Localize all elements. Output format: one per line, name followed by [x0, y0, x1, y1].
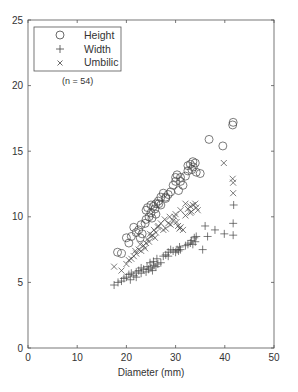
data-point — [220, 230, 228, 238]
y-tick-label: 15 — [12, 146, 24, 157]
x-tick-label: 10 — [72, 352, 84, 363]
data-point — [142, 206, 150, 214]
legend-label: Width — [84, 43, 111, 55]
x-axis-label: Diameter (mm) — [118, 367, 185, 378]
data-point — [181, 172, 189, 180]
data-point — [175, 187, 183, 195]
data-point — [130, 223, 138, 231]
data-point — [122, 234, 130, 242]
series-width — [110, 201, 238, 289]
scatter-chart: 01020304050 0510152025 Diameter (mm) Hei… — [0, 0, 298, 392]
data-point — [230, 201, 238, 209]
x-tick-label: 30 — [170, 352, 182, 363]
data-point — [229, 219, 237, 227]
x-tick-label: 20 — [121, 352, 133, 363]
data-point — [204, 232, 212, 240]
y-tick-label: 10 — [12, 211, 24, 222]
legend-label: Umbilic — [84, 56, 118, 68]
legend: Height Width Umbilic — [34, 27, 121, 71]
data-point — [230, 190, 236, 196]
data-point — [152, 235, 158, 241]
x-axis: 01020304050 — [25, 20, 280, 363]
data-point — [178, 207, 184, 213]
data-point — [195, 207, 201, 213]
y-tick-label: 5 — [17, 277, 23, 288]
data-point — [230, 180, 236, 186]
x-tick-label: 50 — [268, 352, 280, 363]
data-point — [219, 142, 227, 150]
data-point — [192, 232, 200, 240]
data-point — [153, 230, 159, 236]
data-point — [142, 245, 148, 251]
x-tick-label: 40 — [219, 352, 231, 363]
y-tick-label: 0 — [17, 343, 23, 354]
data-point — [111, 264, 117, 270]
data-point — [211, 226, 219, 234]
data-point — [221, 160, 227, 166]
data-point — [229, 231, 237, 239]
data-point — [132, 229, 140, 237]
data-points — [110, 118, 238, 289]
data-point — [163, 226, 169, 232]
legend-label: Height — [84, 29, 114, 41]
y-tick-label: 20 — [12, 80, 24, 91]
x-tick-label: 0 — [25, 352, 31, 363]
series-height — [114, 118, 238, 257]
data-point — [189, 158, 197, 166]
data-point — [205, 135, 213, 143]
sample-size-note: (n = 54) — [62, 76, 93, 86]
data-point — [118, 268, 124, 274]
data-point — [201, 222, 209, 230]
data-point — [127, 232, 135, 240]
data-point — [199, 246, 207, 254]
data-point — [168, 222, 174, 228]
y-tick-label: 25 — [12, 15, 24, 26]
